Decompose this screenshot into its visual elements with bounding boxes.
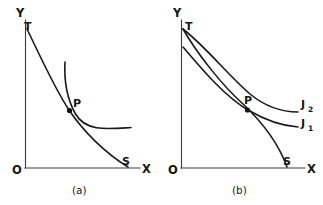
panel-b-point-t-label: T [185,20,193,33]
panel-b-curve-label-j1-subscript: 1 [308,124,313,133]
panel-b-curve-label-j1-letter: J [300,117,305,130]
panel-a-x-axis-label: X [142,162,151,176]
economics-figure: Y T P S X O (a) Y T P S [0,0,323,205]
panel-b-curve-label-j2: J 2 [300,98,313,114]
panel-b-curve-label-j1: J 1 [300,117,313,133]
panel-b-point-s-label: S [283,155,291,168]
panel-a-point-p-label: P [73,97,81,110]
panel-b-caption: (b) [232,184,247,196]
panel-a-origin-label: O [12,163,22,177]
panel-a: Y T P S X O (a) [12,6,151,196]
panel-a-y-axis-label: Y [15,6,25,20]
panel-a-point-s-label: S [122,155,130,168]
panel-b-indifference-curve-j1 [183,47,298,127]
panel-b-x-axis-label: X [307,162,316,176]
panel-b: Y T P S X O J 2 J 1 (b) [168,6,316,196]
panel-a-point-p-marker [67,108,72,113]
panel-b-origin-label: O [168,163,178,177]
panel-b-y-axis-label: Y [172,6,182,20]
panel-b-point-p-label: P [244,94,252,107]
panel-b-indifference-curve-j2 [183,29,298,112]
panel-b-curve-label-j2-letter: J [300,98,305,111]
panel-a-point-t-label: T [24,20,32,33]
panel-a-caption: (a) [72,184,87,196]
panel-b-transformation-curve-ts [183,29,287,167]
panel-b-curve-label-j2-subscript: 2 [308,105,313,114]
panel-b-point-p-marker [245,107,250,112]
